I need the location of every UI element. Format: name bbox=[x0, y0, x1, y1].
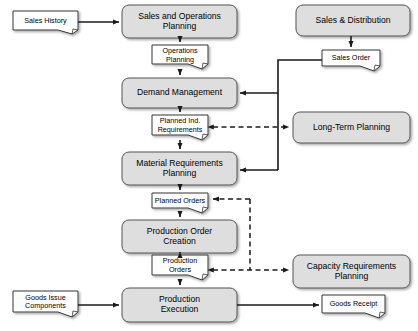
flowchart-shapes-layer bbox=[0, 0, 418, 331]
node-goods-receipt[interactable] bbox=[322, 295, 385, 318]
node-production-orders[interactable] bbox=[152, 255, 208, 280]
node-demand-management[interactable] bbox=[122, 78, 237, 108]
flowchart-canvas: Sales History Sales and Operations Plann… bbox=[0, 0, 418, 331]
node-sales-order[interactable] bbox=[322, 50, 380, 71]
node-capacity-requirements-planning[interactable] bbox=[293, 255, 410, 288]
node-material-requirements-planning[interactable] bbox=[122, 152, 237, 185]
node-planned-orders[interactable] bbox=[152, 193, 208, 213]
node-production-order-creation[interactable] bbox=[122, 220, 237, 253]
node-planned-ind-requirements[interactable] bbox=[152, 115, 208, 140]
node-long-term-planning[interactable] bbox=[293, 112, 410, 143]
node-production-execution[interactable] bbox=[122, 288, 237, 322]
node-sales-and-operations-planning[interactable] bbox=[122, 5, 237, 38]
node-sales-and-distribution[interactable] bbox=[296, 5, 410, 36]
node-goods-issue-components[interactable] bbox=[13, 291, 78, 317]
node-operations-planning[interactable] bbox=[152, 45, 208, 69]
node-sales-history[interactable] bbox=[13, 11, 78, 34]
